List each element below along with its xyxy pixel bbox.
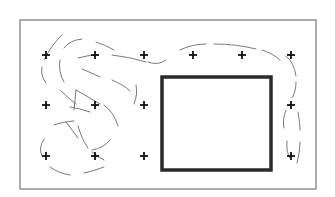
plus-marker-icon xyxy=(91,152,99,160)
path-dash xyxy=(84,167,104,173)
path-dash xyxy=(283,110,286,128)
path-dash xyxy=(66,122,78,138)
plus-marker-icon xyxy=(140,51,148,59)
path-dash xyxy=(50,167,70,175)
path-dash xyxy=(92,140,110,150)
path-dash xyxy=(292,82,296,98)
path-dash xyxy=(112,80,130,91)
path-dash xyxy=(96,42,114,50)
path-dash xyxy=(112,55,146,62)
plus-marker-icon xyxy=(42,152,50,160)
path-dash xyxy=(298,112,300,130)
path-dash xyxy=(64,39,82,48)
diagram-canvas xyxy=(0,0,335,197)
plus-marker-icon xyxy=(140,152,148,160)
path-dash xyxy=(262,50,280,60)
plus-marker-icon xyxy=(140,101,148,109)
plus-marker-icon xyxy=(42,101,50,109)
plus-marker-icon xyxy=(238,51,246,59)
path-dash xyxy=(40,139,44,156)
path-dash xyxy=(60,90,76,104)
plus-marker-icon xyxy=(287,101,295,109)
path-dash xyxy=(78,126,88,148)
path-dash xyxy=(74,90,76,110)
path-dash xyxy=(148,60,166,64)
path-dash xyxy=(60,60,65,82)
path-dash xyxy=(42,67,47,83)
path-dash xyxy=(54,121,74,125)
plus-marker-icon xyxy=(189,51,197,59)
obstacle-square xyxy=(162,77,271,170)
path-dash xyxy=(82,69,100,77)
path-dash xyxy=(214,44,256,49)
path-dash xyxy=(134,85,137,104)
path-dash xyxy=(76,90,100,104)
plus-marker-icon xyxy=(91,51,99,59)
path-dash xyxy=(297,142,300,163)
path-dash xyxy=(104,105,118,126)
path-dash xyxy=(70,107,90,112)
path-dash xyxy=(180,44,206,50)
